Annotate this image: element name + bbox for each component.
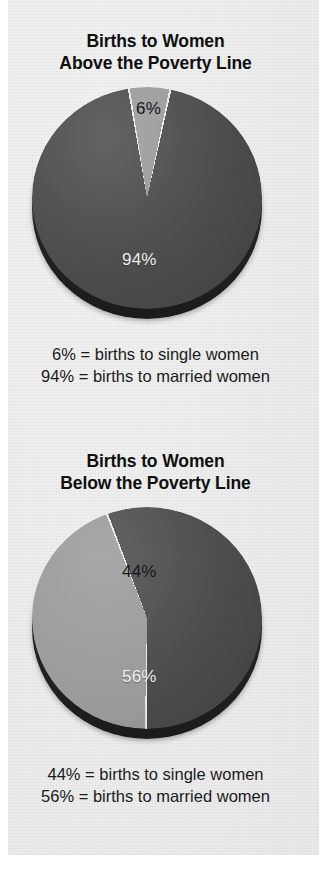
chart-title-line-1: Births to Women	[0, 450, 311, 472]
pie-slices-above	[32, 87, 262, 309]
caption-line-single-below: 44% = births to single women	[0, 764, 311, 786]
chart-title-line-2: Above the Poverty Line	[0, 52, 311, 74]
figure-page: Births to Women Above the Poverty Line 6…	[0, 0, 326, 877]
caption-line-married-below: 56% = births to married women	[0, 786, 311, 808]
pie-chart-above-poverty-line: 6% 94%	[0, 83, 311, 338]
chart-caption-below-poverty-line: 44% = births to single women 56% = birth…	[0, 764, 311, 808]
pie-disc-below	[32, 507, 262, 729]
caption-line-single-above: 6% = births to single women	[0, 344, 311, 366]
chart-title-above-poverty-line: Births to Women Above the Poverty Line	[0, 30, 311, 75]
chart-panel-below-poverty-line: Births to Women Below the Poverty Line 4…	[0, 450, 311, 807]
chart-title-line-2: Below the Poverty Line	[0, 472, 311, 494]
pie-stage-below: 44% 56%	[32, 507, 262, 739]
pie-chart-below-poverty-line: 44% 56%	[0, 503, 311, 758]
pie-disc-above	[32, 87, 262, 309]
chart-panel-above-poverty-line: Births to Women Above the Poverty Line 6…	[0, 30, 311, 387]
chart-title-below-poverty-line: Births to Women Below the Poverty Line	[0, 450, 311, 495]
chart-title-line-1: Births to Women	[0, 30, 311, 52]
caption-line-married-above: 94% = births to married women	[0, 366, 311, 388]
pie-slices-below	[32, 507, 262, 729]
chart-caption-above-poverty-line: 6% = births to single women 94% = births…	[0, 344, 311, 388]
pie-stage-above: 6% 94%	[32, 87, 262, 319]
